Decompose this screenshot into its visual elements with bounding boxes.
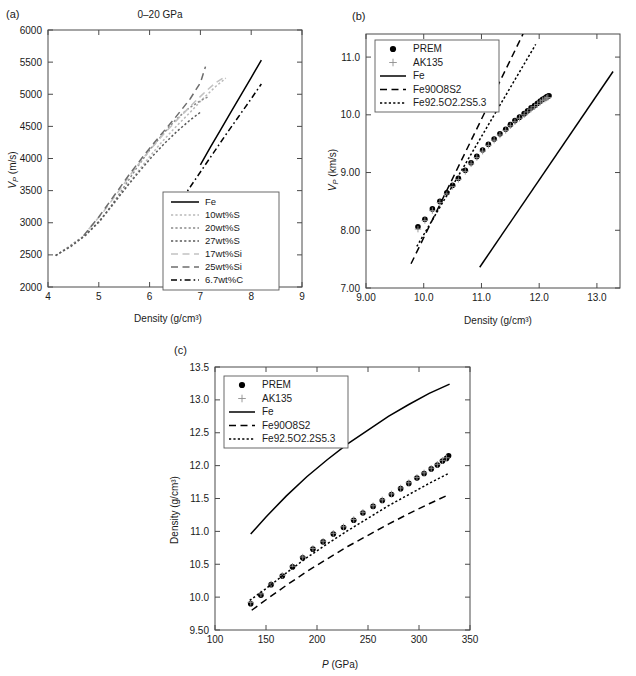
panel-c-ytick: 13.5 — [190, 362, 210, 373]
panel-c-ytick: 11.0 — [190, 526, 209, 537]
panel-c-xtick: 100 — [207, 634, 224, 645]
panel-a-ytick: 6000 — [20, 25, 43, 36]
panel-c-xtick: 250 — [360, 634, 377, 645]
legend-label: 17wt%Si — [205, 248, 242, 259]
legend-label: Fe90O8S2 — [262, 420, 311, 431]
svg-text:VP (km/s): VP (km/s) — [327, 149, 340, 191]
panel-a-xtick: 5 — [96, 291, 102, 302]
panel-a-xtick: 4 — [45, 291, 51, 302]
panel-b-ylabel-rest: (km/s) — [327, 149, 338, 180]
legend-label: Fe90O8S2 — [413, 84, 462, 95]
legend-label: Fe — [205, 196, 216, 207]
panel-b-xtick: 11.0 — [472, 292, 491, 303]
panel-b-tag: (b) — [352, 10, 365, 22]
panel-a-ylabel-rest: (m/s) — [7, 151, 18, 177]
panel-c-xtick: 150 — [258, 634, 275, 645]
panel-c: (c) 1001502002503003509.5010.010.511.011… — [160, 330, 490, 676]
panel-b-ytick: 8.00 — [341, 225, 361, 236]
legend-label: Fe — [262, 406, 274, 417]
panel-c-xtick: 200 — [309, 634, 326, 645]
legend-marker-dot — [239, 382, 245, 388]
panel-a-title: 0–20 GPa — [137, 9, 182, 20]
panel-c-chart: (c) 1001502002503003509.5010.010.511.011… — [160, 330, 490, 676]
panel-b-xtick: 12.0 — [529, 292, 549, 303]
panel-a: (a) 0–20 GPa 456789200025003000350040004… — [0, 0, 320, 330]
panel-c-ylabel: Density (g/cm³) — [169, 476, 180, 544]
panel-b-xtick: 10.0 — [414, 292, 434, 303]
panel-b: (b) 9.0010.011.012.013.07.008.009.0010.0… — [320, 0, 636, 330]
panel-a-xtick: 7 — [198, 291, 204, 302]
panel-a-ytick: 3500 — [20, 185, 43, 196]
panel-c-xlabel-rest: (GPa) — [329, 659, 358, 670]
panel-c-ytick: 9.50 — [190, 625, 210, 636]
panel-b-chart: (b) 9.0010.011.012.013.07.008.009.0010.0… — [320, 0, 636, 330]
series-curve — [250, 474, 449, 601]
legend-label: 6.7wt%C — [205, 274, 243, 285]
panel-b-xtick: 13.0 — [587, 292, 607, 303]
panel-a-legend: Fe10wt%S20wt%S27wt%S17wt%Si25wt%Si6.7wt%… — [163, 192, 279, 290]
panel-a-ytick: 3000 — [20, 217, 43, 228]
legend-label: 20wt%S — [205, 222, 240, 233]
panel-c-tag: (c) — [174, 344, 187, 356]
panel-b-ytick: 9.00 — [341, 167, 361, 178]
series-curve — [200, 60, 261, 165]
panel-c-ytick: 10.0 — [190, 592, 210, 603]
panel-a-xtick: 6 — [147, 291, 153, 302]
legend-marker-dot — [390, 46, 396, 52]
legend-label: 27wt%S — [205, 235, 240, 246]
legend-label: Fe92.5O2.2S5.3 — [262, 433, 336, 444]
panel-b-xlabel: Density (g/cm³) — [464, 315, 532, 326]
panel-b-ytick: 11.0 — [341, 52, 360, 63]
panel-a-chart: (a) 0–20 GPa 456789200025003000350040004… — [0, 0, 320, 330]
panel-a-xtick: 9 — [299, 291, 305, 302]
panel-b-y-axis-title: VP (km/s) — [327, 149, 340, 191]
legend-label: AK135 — [262, 393, 292, 404]
legend-label: 10wt%S — [205, 209, 240, 220]
panel-a-xlabel: Density (g/cm³) — [134, 313, 202, 324]
panel-b-legend: PREMAK135FeFe90O8S2Fe92.5O2.2S5.3 — [375, 40, 499, 112]
panel-a-ytick: 4500 — [20, 121, 43, 132]
legend-label: PREM — [413, 43, 442, 54]
legend-label: AK135 — [413, 57, 443, 68]
panel-a-ytick: 5500 — [20, 57, 43, 68]
series-curve — [252, 495, 448, 610]
panel-a-ytick: 4000 — [20, 153, 43, 164]
legend-label: 25wt%Si — [205, 261, 242, 272]
panel-a-xtick: 8 — [248, 291, 254, 302]
svg-text:P (GPa): P (GPa) — [322, 659, 358, 670]
panel-a-ytick: 5000 — [20, 89, 43, 100]
panel-a-ytick: 2000 — [20, 282, 43, 293]
panel-c-ytick: 11.5 — [190, 493, 209, 504]
series-curve — [175, 84, 261, 210]
svg-text:VP (m/s): VP (m/s) — [7, 151, 20, 188]
legend-label: Fe — [413, 70, 425, 81]
legend-label: PREM — [262, 379, 291, 390]
panel-c-ytick: 12.0 — [190, 460, 210, 471]
panel-c-xtick: 350 — [462, 634, 479, 645]
panel-b-ytick: 7.00 — [341, 283, 361, 294]
legend-label: Fe92.5O2.2S5.3 — [413, 97, 487, 108]
panel-c-ytick: 12.5 — [190, 427, 210, 438]
panel-a-ytick: 2500 — [20, 249, 43, 260]
panel-b-ytick: 10.0 — [341, 109, 361, 120]
panel-a-tag: (a) — [6, 8, 19, 20]
panel-c-x-axis-title: P (GPa) — [322, 659, 358, 670]
panel-c-xtick: 300 — [411, 634, 428, 645]
panel-c-legend: PREMAK135FeFe90O8S2Fe92.5O2.2S5.3 — [224, 376, 348, 448]
panel-b-xtick: 9.00 — [356, 292, 376, 303]
panel-a-y-axis-title: VP (m/s) — [7, 151, 20, 188]
panel-c-ytick: 10.5 — [190, 559, 210, 570]
panel-c-ytick: 13.0 — [190, 394, 210, 405]
